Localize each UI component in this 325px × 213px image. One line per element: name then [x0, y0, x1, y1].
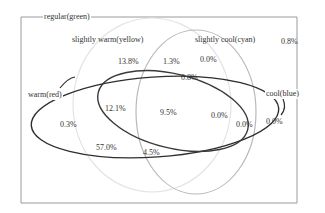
region-warm-cool-sw: 12.1%	[105, 104, 126, 114]
region-sw-sc: 1.3%	[163, 57, 180, 67]
slightly-cool-set-label: slightly cool(cyan)	[195, 35, 255, 45]
cool-set-label: cool(blue)	[265, 89, 300, 99]
region-all-bottom: 4.5%	[143, 148, 160, 158]
region-all-center: 9.5%	[160, 108, 177, 118]
region-cool-sc: 0.0%	[236, 120, 253, 130]
region-warm-sw: 57.0%	[96, 143, 117, 153]
venn-diagram: regular(green) slightly warm(yellow) sli…	[0, 0, 325, 213]
region-warm-cool-sc: 0.0%	[211, 111, 228, 121]
cool-label-leader	[281, 99, 285, 115]
warm-label-leader	[60, 77, 75, 88]
region-all-top: 0.8%	[181, 73, 198, 83]
region-slightly-cool-only: 0.0%	[200, 55, 217, 65]
slightly-cool-circle	[136, 30, 256, 194]
region-slightly-warm-only: 13.8%	[118, 57, 139, 67]
region-cool-only: 0.0%	[266, 117, 283, 127]
region-warm-only: 0.3%	[60, 120, 77, 130]
slightly-warm-set-label: slightly warm(yellow)	[72, 35, 143, 45]
region-outside-all: 0.8%	[281, 37, 298, 47]
warm-set-label: warm(red)	[27, 90, 63, 100]
regular-set-label: regular(green)	[43, 12, 91, 22]
venn-diagram-canvas	[0, 0, 325, 213]
